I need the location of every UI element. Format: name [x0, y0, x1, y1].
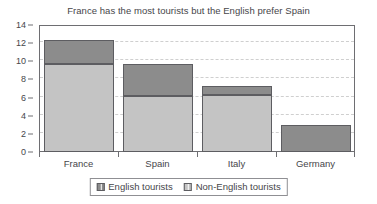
y-tick-label: 2	[21, 129, 26, 139]
bar-segment-english[interactable]	[123, 64, 193, 96]
y-tick-mark	[28, 97, 33, 98]
legend-label: English tourists	[108, 181, 172, 192]
y-tick-mark	[28, 61, 33, 62]
x-tick-mark	[354, 152, 355, 157]
bar-group[interactable]	[202, 86, 272, 152]
x-tick-mark	[39, 152, 40, 157]
y-tick-mark	[28, 152, 33, 153]
x-tick-mark	[276, 152, 277, 157]
x-tick-label-france: France	[64, 158, 94, 169]
legend-swatch-icon	[184, 183, 192, 191]
legend-label: Non-English tourists	[196, 181, 281, 192]
chart-container: France has the most tourists but the Eng…	[0, 0, 377, 204]
bar-segment-non-english[interactable]	[202, 95, 272, 152]
x-tick-mark	[118, 152, 119, 157]
chart-legend: English touristsNon-English tourists	[89, 178, 287, 196]
x-tick-label-italy: Italy	[228, 158, 245, 169]
legend-item[interactable]: English tourists	[96, 181, 172, 192]
bar-segment-english[interactable]	[44, 40, 114, 64]
bar-group[interactable]	[281, 125, 351, 152]
y-tick-mark	[28, 133, 33, 134]
y-tick-label: 12	[16, 38, 26, 48]
x-axis: FranceSpainItalyGermany	[39, 152, 355, 174]
bar-series-layer	[39, 25, 355, 152]
y-tick-mark	[28, 79, 33, 80]
bar-segment-english[interactable]	[281, 125, 351, 152]
x-tick-mark	[197, 152, 198, 157]
bar-segment-non-english[interactable]	[123, 96, 193, 152]
bar-group[interactable]	[44, 40, 114, 152]
y-tick-label: 8	[21, 74, 26, 84]
x-tick-label-spain: Spain	[145, 158, 169, 169]
bar-segment-non-english[interactable]	[44, 64, 114, 152]
y-tick-mark	[28, 25, 33, 26]
bar-group[interactable]	[123, 64, 193, 152]
y-tick-label: 14	[16, 20, 26, 30]
y-tick-label: 0	[21, 147, 26, 157]
y-tick-mark	[28, 43, 33, 44]
y-tick-label: 4	[21, 111, 26, 121]
y-tick-label: 6	[21, 93, 26, 103]
y-axis: 02468101214	[0, 25, 33, 152]
legend-swatch-icon	[96, 183, 104, 191]
y-tick-label: 10	[16, 56, 26, 66]
y-tick-mark	[28, 115, 33, 116]
chart-title: France has the most tourists but the Eng…	[0, 5, 377, 16]
x-tick-label-germany: Germany	[296, 158, 335, 169]
bar-segment-english[interactable]	[202, 86, 272, 95]
legend-item[interactable]: Non-English tourists	[184, 181, 281, 192]
